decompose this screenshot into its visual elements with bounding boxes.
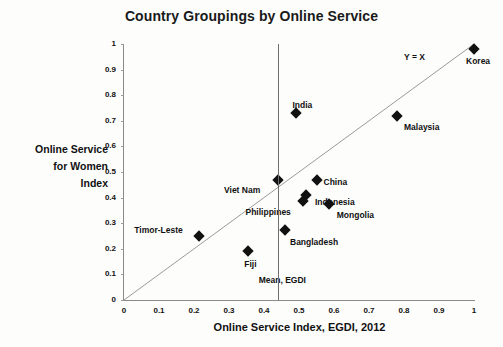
y-tick-label: 0 bbox=[90, 295, 116, 304]
chart-page: Country Groupings by Online Service Onli… bbox=[0, 0, 503, 347]
y-axis-title-line-3: Index bbox=[4, 175, 108, 192]
data-point-label: Mongolia bbox=[337, 210, 374, 220]
data-point-label: Philippines bbox=[246, 207, 291, 217]
data-point-label: Korea bbox=[466, 56, 490, 66]
data-marker[interactable] bbox=[279, 224, 290, 235]
data-point-label: China bbox=[324, 177, 348, 187]
y-tick-label: 1 bbox=[90, 39, 116, 48]
y-tick-label: 0.2 bbox=[90, 244, 116, 253]
y-tick-label: 0.6 bbox=[90, 141, 116, 150]
data-marker[interactable] bbox=[311, 174, 322, 185]
identity-line-label: Y = X bbox=[404, 52, 425, 62]
data-marker[interactable] bbox=[243, 246, 254, 257]
data-point-label: Viet Nam bbox=[224, 185, 260, 195]
data-point-label: Bangladesh bbox=[290, 237, 338, 247]
data-marker[interactable] bbox=[391, 110, 402, 121]
x-tick-label: 0.2 bbox=[179, 306, 209, 315]
y-tick-label: 0.9 bbox=[90, 65, 116, 74]
x-tick-label: 0 bbox=[109, 306, 139, 315]
y-tick-label: 0.7 bbox=[90, 116, 116, 125]
x-tick-label: 0.1 bbox=[144, 306, 174, 315]
x-tick-label: 0.7 bbox=[354, 306, 384, 315]
x-axis-line bbox=[124, 300, 475, 301]
x-tick-label: 0.6 bbox=[319, 306, 349, 315]
data-point-label: Timor-Leste bbox=[134, 225, 183, 235]
plot-area: KoreaMalaysiaIndiaViet NamChinaIndonesia… bbox=[124, 44, 474, 300]
data-point-label: Indonesia bbox=[315, 197, 355, 207]
y-tick-label: 0.4 bbox=[90, 193, 116, 202]
chart-title: Country Groupings by Online Service bbox=[0, 8, 503, 24]
x-tick-label: 1 bbox=[459, 306, 489, 315]
y-tick-label: 0.5 bbox=[90, 167, 116, 176]
x-tick-label: 0.3 bbox=[214, 306, 244, 315]
x-tick-label: 0.5 bbox=[284, 306, 314, 315]
data-point-label: Malaysia bbox=[404, 122, 439, 132]
y-tick-label: 0.3 bbox=[90, 218, 116, 227]
y-tick-label: 0.8 bbox=[90, 90, 116, 99]
data-point-label: Fiji bbox=[244, 259, 256, 269]
data-point-label: India bbox=[293, 100, 313, 110]
x-tick-label: 0.9 bbox=[424, 306, 454, 315]
data-marker[interactable] bbox=[468, 43, 479, 54]
identity-line bbox=[124, 44, 474, 300]
data-marker[interactable] bbox=[194, 230, 205, 241]
y-tick-mark bbox=[121, 300, 124, 301]
y-tick-label: 0.1 bbox=[90, 269, 116, 278]
x-tick-label: 0.8 bbox=[389, 306, 419, 315]
x-tick-label: 0.4 bbox=[249, 306, 279, 315]
mean-egdi-line bbox=[278, 44, 279, 300]
mean-line-label: Mean, EGDI bbox=[259, 275, 306, 285]
x-axis-title: Online Service Index, EGDI, 2012 bbox=[124, 321, 475, 333]
